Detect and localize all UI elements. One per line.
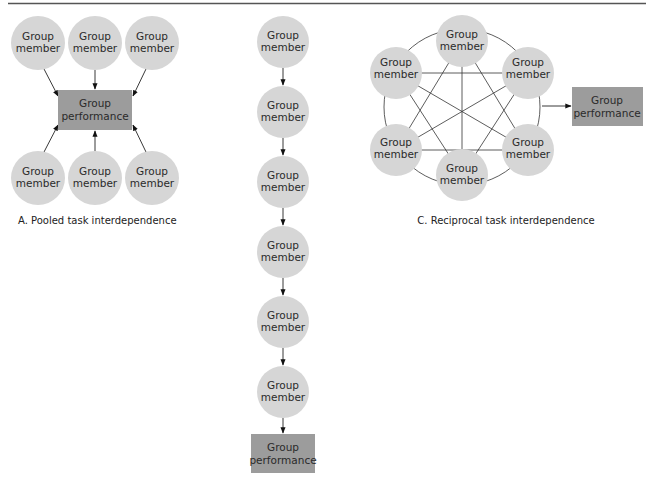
svg-text:member: member	[73, 177, 118, 189]
svg-text:Group: Group	[267, 379, 299, 391]
sequential-diagram: Group member Group member Group member G…	[249, 16, 316, 473]
svg-text:member: member	[261, 391, 306, 403]
task-interdependence-figure: Group member Group member Group member G…	[0, 0, 655, 484]
svg-text:Group: Group	[512, 136, 544, 148]
pooled-member-1: Group member	[11, 16, 65, 70]
svg-text:Group: Group	[267, 441, 299, 453]
sequential-member-5: Group member	[257, 296, 309, 348]
reciprocal-diagram: Group member Group member Group member G…	[370, 15, 643, 226]
svg-text:Group: Group	[380, 56, 412, 68]
svg-text:member: member	[130, 42, 175, 54]
sequential-member-1: Group member	[257, 16, 309, 68]
reciprocal-member-upper-left: Group member	[370, 47, 422, 99]
reciprocal-member-bottom: Group member	[436, 149, 488, 201]
sequential-member-3: Group member	[257, 156, 309, 208]
svg-text:member: member	[130, 177, 175, 189]
pooled-caption: A. Pooled task interdependence	[18, 215, 177, 226]
svg-text:member: member	[16, 42, 61, 54]
reciprocal-member-upper-right: Group member	[502, 47, 554, 99]
svg-text:Group: Group	[22, 30, 54, 42]
svg-text:member: member	[261, 251, 306, 263]
svg-text:Group: Group	[446, 162, 478, 174]
svg-text:Group: Group	[79, 165, 111, 177]
sequential-member-4: Group member	[257, 226, 309, 278]
svg-text:Group: Group	[267, 169, 299, 181]
svg-text:Group: Group	[136, 30, 168, 42]
pooled-member-3: Group member	[125, 16, 179, 70]
svg-text:Group: Group	[267, 29, 299, 41]
reciprocal-member-lower-right: Group member	[502, 124, 554, 176]
svg-text:performance: performance	[249, 454, 316, 466]
pooled-diagram: Group member Group member Group member G…	[11, 16, 179, 226]
reciprocal-caption: C. Reciprocal task interdependence	[417, 215, 594, 226]
svg-text:member: member	[73, 42, 118, 54]
svg-text:Group: Group	[267, 239, 299, 251]
svg-text:member: member	[440, 40, 485, 52]
svg-text:Group: Group	[591, 94, 623, 106]
svg-text:performance: performance	[61, 110, 128, 122]
reciprocal-member-top: Group member	[436, 15, 488, 67]
pooled-member-4: Group member	[11, 151, 65, 205]
svg-text:member: member	[374, 68, 419, 80]
svg-text:Group: Group	[136, 165, 168, 177]
svg-text:Group: Group	[22, 165, 54, 177]
svg-text:member: member	[374, 148, 419, 160]
pooled-member-2: Group member	[68, 16, 122, 70]
pooled-member-5: Group member	[68, 151, 122, 205]
sequential-member-6: Group member	[257, 366, 309, 418]
svg-text:member: member	[506, 148, 551, 160]
pooled-member-6: Group member	[125, 151, 179, 205]
svg-text:performance: performance	[573, 107, 640, 119]
svg-text:member: member	[261, 321, 306, 333]
svg-text:member: member	[261, 181, 306, 193]
svg-text:member: member	[506, 68, 551, 80]
svg-text:Group: Group	[267, 99, 299, 111]
sequential-group-performance: Group performance	[249, 434, 316, 473]
svg-text:member: member	[261, 111, 306, 123]
reciprocal-group-performance: Group performance	[572, 87, 643, 126]
svg-text:Group: Group	[79, 30, 111, 42]
svg-text:Group: Group	[267, 309, 299, 321]
svg-text:Group: Group	[446, 28, 478, 40]
svg-text:Group: Group	[79, 97, 111, 109]
pooled-group-performance: Group performance	[58, 90, 132, 130]
svg-text:member: member	[16, 177, 61, 189]
sequential-member-2: Group member	[257, 86, 309, 138]
reciprocal-member-lower-left: Group member	[370, 124, 422, 176]
svg-text:Group: Group	[380, 136, 412, 148]
svg-text:Group: Group	[512, 56, 544, 68]
svg-text:member: member	[440, 174, 485, 186]
svg-text:member: member	[261, 41, 306, 53]
